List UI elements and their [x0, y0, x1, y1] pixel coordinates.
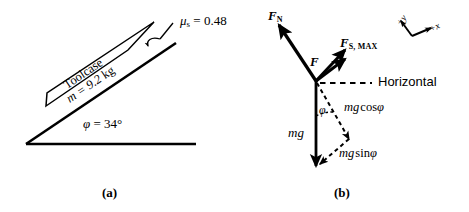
mg-sin-angle: φ [370, 146, 377, 160]
mg-cos-component-label: mg cosφ [344, 101, 384, 114]
mu-value: = 0.48 [190, 13, 227, 28]
panel-b-caption: (b) [334, 186, 350, 199]
horizontal-reference-label: Horizontal [378, 75, 437, 88]
friction-hook-curve [148, 38, 160, 46]
normal-force-arrow [279, 25, 316, 81]
friction-force-arrow [316, 50, 345, 81]
friction-leader-line [160, 23, 173, 39]
mg-cos-angle: φ [377, 100, 384, 114]
friction-coefficient-label: μs = 0.48 [180, 14, 227, 29]
friction-force-symbol: F [340, 35, 349, 50]
mg-sin-function: sin [355, 146, 370, 160]
normal-force-label: FN [268, 9, 283, 24]
incline-angle-label: φ = 34° [83, 117, 122, 130]
normal-force-symbol: F [268, 8, 277, 23]
friction-force-label: FS, MAX [340, 36, 377, 51]
weight-force-label: mg [288, 126, 304, 139]
phi-value: = 34° [90, 116, 122, 131]
mg-sin-prefix: mg [339, 146, 354, 160]
applied-force-label: F [310, 55, 319, 68]
panel-a-caption: (a) [102, 186, 117, 199]
mg-sin-component-label: mg sinφ [339, 147, 377, 160]
axis-x-arrow [412, 28, 431, 36]
mg-cos-prefix: mg [344, 100, 359, 114]
friction-force-subscript: S, MAX [349, 42, 378, 51]
figure-canvas [0, 0, 469, 212]
physics-figure: μs = 0.48 Toolcase m = 9.2 kg φ = 34° (a… [0, 0, 469, 212]
normal-force-subscript: N [277, 15, 283, 24]
mg-cos-function: cos [360, 100, 377, 114]
phi-angle-marker-label: φ [319, 104, 326, 116]
applied-force-symbol: F [310, 54, 319, 69]
